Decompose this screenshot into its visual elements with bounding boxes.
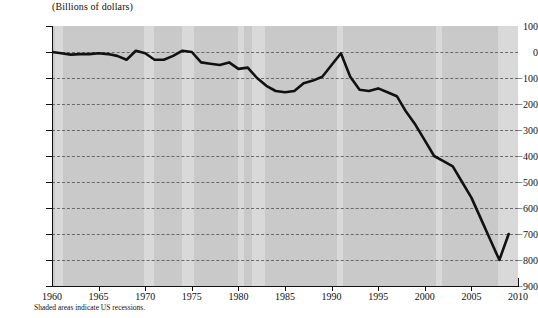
y-axis-tick-mark: [46, 130, 52, 131]
y-axis-tick-label: −600: [490, 203, 538, 214]
y-axis-tick-mark: [46, 182, 52, 183]
x-axis-tick-label: 1985: [275, 291, 295, 302]
x-axis-tick-label: 2005: [461, 291, 481, 302]
plot-area: [52, 26, 518, 286]
x-axis-tick-mark: [378, 286, 379, 291]
x-axis-tick-label: 1980: [228, 291, 248, 302]
x-axis-tick-mark: [471, 286, 472, 291]
y-axis-tick-label: −500: [490, 177, 538, 188]
y-axis-units-label: (Billions of dollars): [52, 1, 133, 12]
x-axis-tick-label: 1975: [182, 291, 202, 302]
x-axis-tick-label: 1960: [42, 291, 62, 302]
y-axis-tick-mark: [46, 156, 52, 157]
y-axis-tick-label: −400: [490, 151, 538, 162]
x-axis-tick-label: 1995: [368, 291, 388, 302]
y-axis-tick-label: −300: [490, 125, 538, 136]
y-axis-tick-mark: [46, 26, 52, 27]
y-axis-tick-label: −200: [490, 99, 538, 110]
chart-footnote: Shaded areas indicate US recessions.: [34, 303, 145, 312]
data-series-line: [52, 26, 518, 286]
y-axis-tick-mark: [46, 286, 52, 287]
y-axis-tick-mark: [46, 78, 52, 79]
chart-figure: (Billions of dollars) 1000−100−200−300−4…: [0, 0, 538, 318]
x-axis-tick-mark: [285, 286, 286, 291]
y-axis-tick-mark: [46, 260, 52, 261]
x-axis-tick-label: 1990: [322, 291, 342, 302]
y-axis-tick-mark: [46, 52, 52, 53]
x-axis-tick-label: 2010: [508, 291, 528, 302]
x-axis-tick-label: 1970: [135, 291, 155, 302]
x-axis-tick-mark: [192, 286, 193, 291]
y-axis-tick-mark: [46, 234, 52, 235]
series-line: [52, 51, 509, 260]
y-axis-tick-label: 0: [490, 47, 538, 58]
x-axis-tick-mark: [332, 286, 333, 291]
y-axis-tick-label: 100: [490, 21, 538, 32]
y-axis-tick-mark: [46, 208, 52, 209]
y-axis-line: [52, 26, 53, 286]
y-axis-tick-label: −900: [490, 281, 538, 292]
x-axis-tick-mark: [145, 286, 146, 291]
x-axis-tick-mark: [99, 286, 100, 291]
y-axis-tick-label: −700: [490, 229, 538, 240]
x-axis-tick-label: 1965: [89, 291, 109, 302]
x-axis-tick-label: 2000: [415, 291, 435, 302]
y-axis-tick-label: −100: [490, 73, 538, 84]
y-axis-tick-label: −800: [490, 255, 538, 266]
x-axis-tick-mark: [425, 286, 426, 291]
y-axis-tick-mark: [46, 104, 52, 105]
x-axis-tick-mark: [238, 286, 239, 291]
